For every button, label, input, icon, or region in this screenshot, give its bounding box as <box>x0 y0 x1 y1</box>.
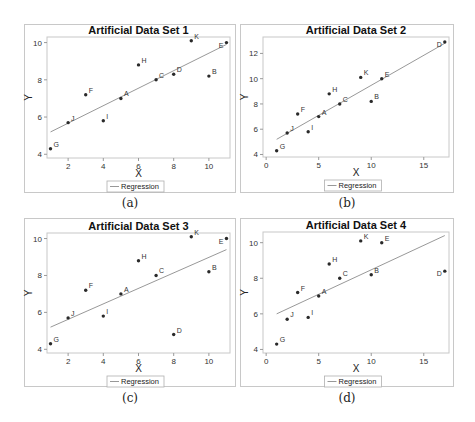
chart-panel-d: Artificial Data Set 446810051015XYABCDEF… <box>0 0 475 422</box>
data-point <box>380 241 383 244</box>
point-label: E <box>385 235 390 242</box>
legend-label: Regression <box>339 377 377 386</box>
point-label: I <box>311 309 313 316</box>
plot-area <box>263 232 449 353</box>
y-tick-label: 8 <box>254 274 259 283</box>
y-axis-label: Y <box>239 289 250 296</box>
point-label: C <box>343 270 348 277</box>
data-point <box>317 294 320 297</box>
x-tick-label: 0 <box>264 357 269 366</box>
data-point <box>443 269 446 272</box>
point-label: J <box>290 311 294 318</box>
point-label: A <box>322 288 327 295</box>
data-point <box>328 262 331 265</box>
regression-line <box>277 236 445 314</box>
point-label: K <box>364 233 369 240</box>
data-point <box>306 316 309 319</box>
point-label: D <box>437 270 442 277</box>
point-label: G <box>280 336 285 343</box>
y-tick-label: 4 <box>254 345 259 354</box>
scatter-plot: 46810051015XYABCDEFGHIJKRegression <box>0 0 475 422</box>
point-label: H <box>332 256 337 263</box>
figure-caption: (d) <box>240 391 454 405</box>
data-point <box>296 291 299 294</box>
data-point <box>275 342 278 345</box>
x-tick-label: 5 <box>316 357 321 366</box>
data-point <box>359 239 362 242</box>
y-tick-label: 6 <box>254 310 259 319</box>
y-tick-label: 10 <box>249 239 258 248</box>
point-label: B <box>374 267 379 274</box>
x-tick-label: 15 <box>419 357 428 366</box>
data-point <box>285 317 288 320</box>
x-tick-label: 10 <box>367 357 376 366</box>
x-axis-label: X <box>353 363 360 374</box>
data-point <box>370 273 373 276</box>
point-label: F <box>301 285 305 292</box>
data-point <box>338 277 341 280</box>
